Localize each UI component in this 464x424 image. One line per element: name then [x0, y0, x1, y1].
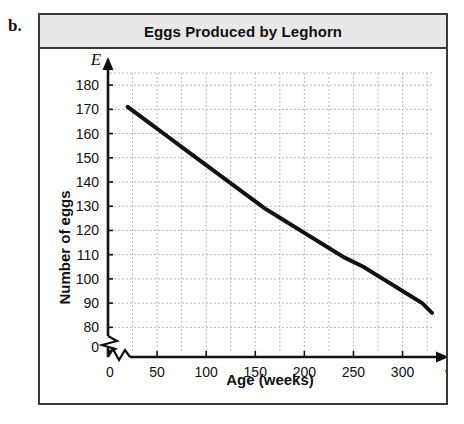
y-axis-arrowhead-icon [103, 57, 114, 70]
y-tick-label: 140 [76, 174, 100, 190]
y-tick-label: 0 [91, 339, 99, 355]
x-axis-break-zigzag [108, 349, 130, 360]
y-tick-label: 130 [76, 198, 100, 214]
exercise-item-label: b. [8, 16, 22, 36]
chart-panel: Eggs Produced by Leghorn 080901001101201… [38, 13, 448, 405]
y-tick-label: 80 [83, 319, 99, 335]
y-tick-label: 110 [77, 247, 100, 263]
y-axis-break-zigzag [102, 336, 117, 352]
chart-title: Eggs Produced by Leghorn [40, 15, 446, 49]
y-axis-variable-label: E [90, 50, 102, 69]
y-tick-label: 170 [76, 101, 100, 117]
y-tick-label: 120 [76, 222, 100, 238]
x-axis-title: Age (weeks) [100, 371, 440, 388]
x-axis-arrowhead-icon [436, 352, 446, 363]
figure-stage: b. Eggs Produced by Leghorn 080901001101… [0, 0, 464, 424]
y-tick-label: 100 [76, 271, 100, 287]
tick-labels: 0809010011012013014015016017018005010015… [76, 77, 415, 380]
axis-break-marks [102, 336, 130, 360]
y-axis-title: Number of eggs [52, 157, 76, 337]
axis-variable-letters: Ew [90, 50, 446, 382]
chart-svg: 0809010011012013014015016017018005010015… [40, 49, 446, 403]
y-tick-label: 150 [76, 150, 100, 166]
chart-plot-area: 0809010011012013014015016017018005010015… [40, 49, 446, 403]
y-tick-label: 160 [76, 126, 100, 142]
x-axis-variable-label: w [444, 363, 446, 382]
y-tick-label: 180 [76, 77, 100, 93]
y-axis-title-text: Number of eggs [56, 190, 73, 304]
y-tick-label: 90 [83, 295, 99, 311]
axis-arrowheads [103, 57, 447, 363]
